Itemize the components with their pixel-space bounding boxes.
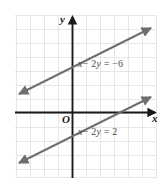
lower-equals: = — [104, 126, 110, 137]
equation-label-upper: x− 2y = −6 — [78, 58, 123, 69]
graph-figure: y x O x− 2y = −6 x− 2y = 2 — [0, 0, 163, 195]
equation-label-lower: x− 2y = 2 — [78, 126, 117, 137]
upper-rhs-value: −6 — [112, 58, 123, 69]
x-axis-label: x — [152, 112, 158, 124]
upper-equals: = — [104, 58, 110, 69]
lower-rhs-value: 2 — [112, 126, 117, 137]
upper-lhs-y: y — [96, 58, 101, 69]
lower-minus-two: − 2 — [83, 126, 97, 137]
y-axis-label: y — [60, 13, 65, 25]
origin-label: O — [62, 113, 70, 125]
lower-lhs-y: y — [96, 126, 101, 137]
coordinate-plane-svg — [0, 0, 163, 195]
upper-minus-two: − 2 — [83, 58, 97, 69]
